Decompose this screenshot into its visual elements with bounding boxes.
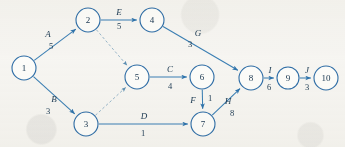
node-label-9: 9	[286, 73, 291, 83]
edge-1-to-2	[34, 29, 76, 60]
edge-weight-J: 3	[305, 82, 309, 92]
node-label-3: 3	[84, 119, 89, 129]
node-8[interactable]: 8	[239, 66, 263, 90]
node-3[interactable]: 3	[74, 112, 98, 136]
node-4[interactable]: 4	[140, 8, 164, 32]
node-label-6: 6	[200, 72, 205, 82]
edge-weight-H: 8	[230, 108, 234, 118]
node-label-2: 2	[86, 15, 91, 25]
edge-weight-A: 5	[49, 41, 53, 51]
node-label-1: 1	[22, 63, 27, 73]
edge-label-F: F	[189, 95, 196, 105]
node-6[interactable]: 6	[190, 65, 214, 89]
node-label-7: 7	[201, 119, 206, 129]
edge-weight-G: 3	[188, 39, 192, 49]
edge-weight-F: 1	[208, 93, 212, 103]
edge-label-C: C	[167, 64, 174, 74]
node-label-10: 10	[322, 73, 332, 83]
node-5[interactable]: 5	[125, 65, 149, 89]
edge-label-B: B	[51, 94, 57, 104]
diagram-svg: 12345678910 A5B3E5D1G3C4F1H8I6J3	[0, 0, 345, 147]
nodes-layer: 12345678910	[12, 8, 338, 136]
node-1[interactable]: 1	[12, 56, 36, 80]
edge-label-H: H	[224, 96, 232, 106]
edge-label-A: A	[44, 29, 51, 39]
edge-weight-C: 4	[168, 81, 173, 91]
edge-label-I: I	[268, 65, 273, 75]
node-label-8: 8	[249, 73, 254, 83]
edge-weight-I: 6	[267, 82, 271, 92]
node-label-5: 5	[135, 72, 140, 82]
edge-label-E: E	[115, 7, 122, 17]
edge-weight-E: 5	[117, 21, 121, 31]
node-label-4: 4	[150, 15, 155, 25]
node-7[interactable]: 7	[191, 112, 215, 136]
edge-weight-B: 3	[46, 106, 50, 116]
edge-2-to-5	[96, 30, 127, 66]
edge-3-to-5	[95, 87, 125, 115]
edge-label-J: J	[305, 65, 310, 75]
node-2[interactable]: 2	[76, 8, 100, 32]
node-10[interactable]: 10	[314, 66, 338, 90]
network-diagram-canvas: 12345678910 A5B3E5D1G3C4F1H8I6J3	[0, 0, 345, 147]
edge-label-G: G	[195, 28, 202, 38]
node-9[interactable]: 9	[277, 67, 299, 89]
edge-label-D: D	[140, 111, 148, 121]
edge-weight-D: 1	[141, 128, 145, 138]
